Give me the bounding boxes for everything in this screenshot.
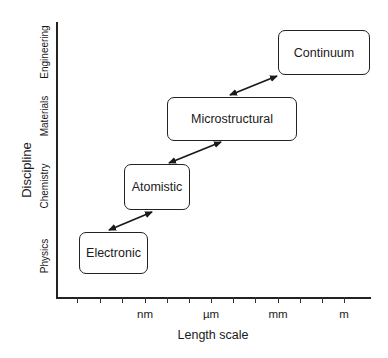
x-tick: [344, 297, 345, 303]
arrow-atomistic-microstructural: [169, 142, 221, 163]
y-category-engineering: Engineering: [39, 25, 50, 78]
arrow-microstructural-continuum: [230, 76, 277, 95]
diagram-canvas: nm µm mm m Length scale Discipline Physi…: [0, 0, 388, 358]
x-tick: [255, 297, 256, 303]
x-tick: [300, 297, 301, 303]
y-category-chemistry: Chemistry: [39, 163, 50, 208]
x-tick: [189, 297, 190, 303]
x-tick: [233, 297, 234, 303]
x-tick: [167, 297, 168, 303]
box-atomistic: Atomistic: [124, 164, 190, 210]
x-tick: [278, 297, 279, 303]
x-axis-title: Length scale: [178, 328, 249, 342]
box-electronic: Electronic: [79, 232, 148, 274]
box-continuum: Continuum: [278, 30, 370, 75]
x-tick: [77, 297, 78, 303]
x-tick: [100, 297, 101, 303]
x-tick: [122, 297, 123, 303]
x-tick-label-mm: mm: [268, 308, 287, 320]
x-tick-label-nm: nm: [137, 308, 153, 320]
y-category-materials: Materials: [39, 96, 50, 137]
x-tick: [322, 297, 323, 303]
x-tick: [145, 297, 146, 303]
y-axis-title: Discipline: [19, 142, 34, 198]
y-axis-line: [56, 22, 58, 299]
x-tick: [211, 297, 212, 303]
x-tick-label-um: µm: [203, 308, 219, 320]
arrow-electronic-atomistic: [109, 212, 152, 230]
y-category-physics: Physics: [39, 239, 50, 273]
x-tick-label-m: m: [339, 308, 349, 320]
x-axis-line: [56, 297, 371, 299]
box-microstructural: Microstructural: [167, 97, 297, 141]
